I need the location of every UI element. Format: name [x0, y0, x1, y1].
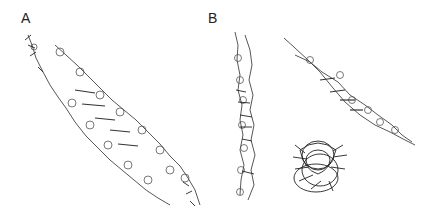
panel-b-diagonal-view [284, 38, 415, 145]
panel-b-side-view [235, 32, 256, 200]
panel-a-structure [25, 35, 200, 206]
molecular-structures [0, 0, 437, 221]
figure: A B [0, 0, 437, 221]
panel-b-end-view [293, 141, 347, 192]
